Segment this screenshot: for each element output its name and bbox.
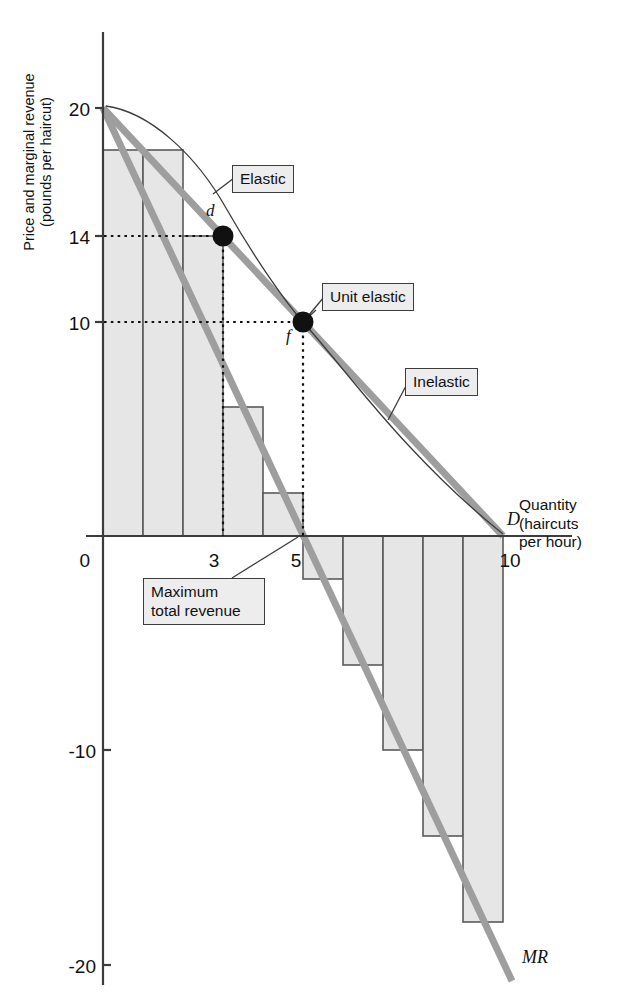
- bar-q9: [423, 536, 463, 836]
- bar-q1: [103, 150, 143, 536]
- x-axis-title: Quantity (haircuts per hour): [519, 496, 582, 552]
- point-d-label: d: [206, 201, 215, 220]
- callout-inelastic-text: Inelastic: [413, 373, 470, 390]
- y-axis-title-line1: Price and marginal revenue: [21, 27, 38, 297]
- callout-max-revenue-line2: total revenue: [151, 601, 257, 620]
- bar-q3: [183, 236, 223, 536]
- x-tick-label-3: 3: [209, 550, 220, 571]
- y-tick-label-20: 20: [69, 99, 90, 120]
- point-d-marker: [213, 226, 234, 247]
- bar-q10: [463, 536, 503, 922]
- elastic-leader: [213, 178, 234, 194]
- callout-unit-elastic: Unit elastic: [322, 283, 414, 311]
- demand-curve-label: D: [506, 509, 520, 529]
- callout-unit-elastic-text: Unit elastic: [330, 288, 406, 305]
- x-tick-label-5: 5: [291, 550, 302, 571]
- point-f-marker: [293, 312, 314, 333]
- bar-q4: [223, 407, 263, 536]
- x-axis-title-line3: per hour): [519, 533, 582, 552]
- bar-q7: [343, 536, 383, 665]
- callout-elastic: Elastic: [232, 165, 294, 193]
- callout-elastic-text: Elastic: [240, 170, 286, 187]
- x-axis-title-line1: Quantity: [519, 496, 582, 515]
- y-tick-label-14: 14: [69, 227, 91, 248]
- x-axis-title-line2: (haircuts: [519, 515, 582, 534]
- y-tick-label-neg10: -10: [69, 741, 96, 762]
- chart-figure: 21 20 14 10 0 -10 -20 3 5 10 d f D MR Pr…: [0, 0, 620, 997]
- callout-maximum-total-revenue: Maximum total revenue: [143, 578, 265, 625]
- max-revenue-leader: [232, 537, 298, 578]
- y-tick-label-10: 10: [69, 313, 90, 334]
- mr-curve-label: MR: [521, 947, 548, 967]
- x-tick-label-10: 10: [499, 550, 520, 571]
- y-axis-title: Price and marginal revenue (pounds per h…: [21, 27, 55, 297]
- callout-max-revenue-line1: Maximum: [151, 582, 257, 601]
- point-f-label: f: [286, 326, 293, 345]
- callout-inelastic: Inelastic: [405, 368, 478, 396]
- y-tick-label-0: 0: [79, 550, 90, 571]
- y-axis-title-line2: (pounds per haircut): [38, 27, 55, 297]
- y-tick-label-neg20: -20: [69, 956, 96, 977]
